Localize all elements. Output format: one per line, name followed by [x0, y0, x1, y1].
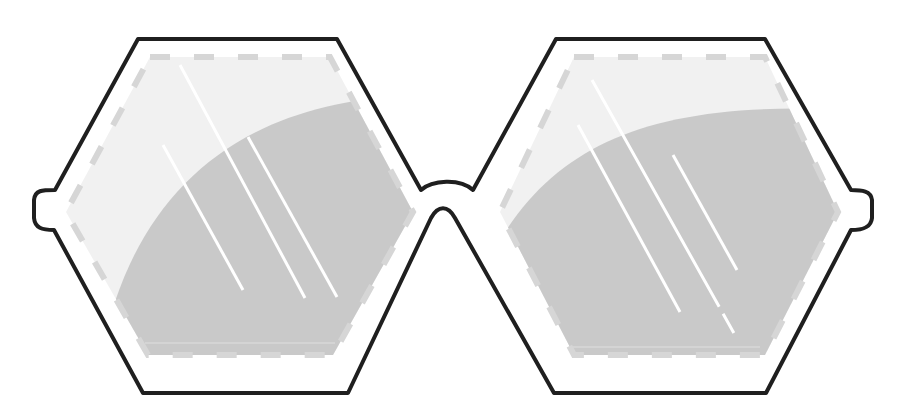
glasses-svg	[0, 0, 908, 420]
glasses-illustration	[0, 0, 908, 420]
left-lens	[60, 50, 420, 360]
